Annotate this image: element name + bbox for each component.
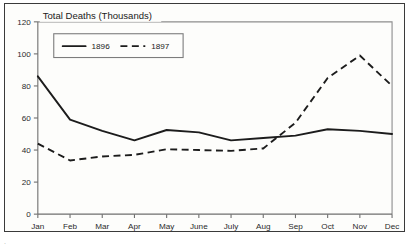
x-tick-label: Sep <box>288 222 303 231</box>
caption-strip: . <box>4 236 405 248</box>
y-tick-label: 60 <box>22 114 32 123</box>
y-tick-label: 120 <box>17 18 31 27</box>
x-tick-label: Apr <box>128 222 141 231</box>
x-tick-label: June <box>190 222 208 231</box>
x-tick-label: May <box>159 222 175 231</box>
caption-text: . <box>4 236 405 248</box>
line-chart: 020406080100120 JanFebMarAprMayJuneJulyA… <box>5 4 404 231</box>
chart-title: Total Deaths (Thousands) <box>43 10 152 21</box>
series-line-1896 <box>38 76 392 140</box>
x-tick-label: Aug <box>256 222 270 231</box>
chart-legend: 1896 1897 <box>54 34 183 58</box>
x-axis-ticks: JanFebMarAprMayJuneJulyAugSepOctNovDec <box>31 214 399 231</box>
x-tick-label: Mar <box>95 222 109 231</box>
x-tick-label: Feb <box>63 222 78 231</box>
chart-figure: 020406080100120 JanFebMarAprMayJuneJulyA… <box>4 3 405 232</box>
x-tick-label: Jan <box>31 222 44 231</box>
x-tick-label: Dec <box>385 222 399 231</box>
y-tick-label: 0 <box>26 210 31 219</box>
legend-label-1897: 1897 <box>151 42 170 51</box>
x-tick-label: Oct <box>321 222 334 231</box>
y-tick-label: 80 <box>22 82 32 91</box>
y-tick-label: 100 <box>17 50 31 59</box>
legend-label-1896: 1896 <box>92 42 111 51</box>
series-line-1897 <box>38 55 392 160</box>
x-tick-label: Nov <box>353 222 368 231</box>
y-axis-ticks: 020406080100120 <box>17 18 38 219</box>
x-tick-label: July <box>224 222 239 231</box>
y-tick-label: 20 <box>22 178 32 187</box>
y-tick-label: 40 <box>22 146 32 155</box>
